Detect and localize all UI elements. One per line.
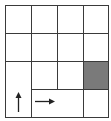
grid-cell-r0c1 — [31, 5, 58, 34]
grid-cell-r1c0 — [5, 33, 32, 62]
arrow-right-icon — [34, 97, 56, 106]
arrow-up-icon — [14, 91, 23, 113]
grid-cell-r2c1 — [31, 61, 58, 90]
grid-cell-r1c3 — [83, 33, 109, 62]
grid-cell-r1c2 — [57, 33, 84, 62]
grid-cell-r0c0 — [5, 5, 32, 34]
grid-cell-shaded-goal — [83, 61, 109, 90]
grid-cell-r2c2 — [57, 61, 84, 90]
grid-cell-r0c2 — [57, 5, 84, 34]
grid-cell-r0c3 — [83, 5, 109, 34]
grid-cell-r1c1 — [31, 33, 58, 62]
grid-diagram — [0, 0, 111, 121]
grid-cell-r3c3 — [83, 89, 109, 118]
